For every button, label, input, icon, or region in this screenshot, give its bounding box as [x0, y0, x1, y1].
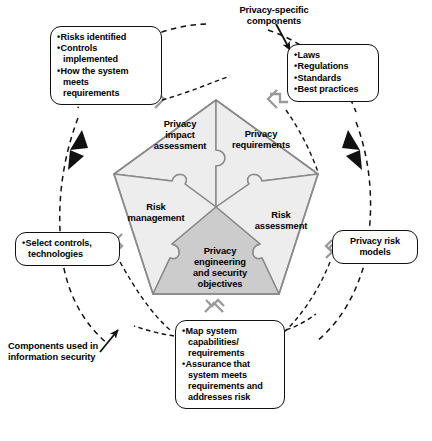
list-item: How the system meets requirements [57, 66, 155, 99]
list-item: Risks identified [57, 32, 155, 43]
callout-privacy-risk-models-text: Privacy risk models [339, 236, 411, 258]
callout-assessment-results: Risks identified Controls implemented Ho… [50, 26, 162, 105]
connector-to-privacy-requirements [268, 90, 288, 108]
leader-privacy-specific [276, 24, 290, 50]
list-item: Assurance that system meets requirements… [182, 359, 278, 403]
ring-arc-bottom-left [62, 258, 108, 344]
callout-system-mapping-list: Map system capabilities/ requirements As… [182, 326, 278, 403]
callout-privacy-risk-models: Privacy risk models [332, 230, 418, 264]
callout-privacy-sources: Laws Regulations Standards Best practice… [287, 44, 379, 102]
list-item: Regulations [294, 61, 372, 72]
list-item: Laws [294, 50, 372, 61]
list-item: Select controls, technologies [22, 238, 113, 260]
list-item: Best practices [294, 84, 372, 95]
callout-privacy-sources-list: Laws Regulations Standards Best practice… [294, 50, 372, 95]
list-item: Standards [294, 73, 372, 84]
pentagon-puzzle [114, 100, 318, 294]
tail-privacy-risk-models [282, 262, 330, 334]
callout-assessment-results-list: Risks identified Controls implemented Ho… [57, 32, 155, 98]
ring-arc-bottom-right [316, 258, 366, 342]
ring-arrowhead-right [342, 130, 362, 170]
callout-system-mapping: Map system capabilities/ requirements As… [175, 320, 285, 409]
list-item: Controls implemented [57, 43, 155, 65]
list-item: Map system capabilities/ requirements [182, 326, 278, 359]
callout-controls-technologies: Select controls, technologies [15, 232, 120, 266]
callout-controls-technologies-list: Select controls, technologies [22, 238, 113, 260]
tail-assessment-results [162, 76, 230, 100]
connector-to-core-objectives [205, 300, 224, 312]
diagram-canvas: Privacy impact assessment Privacy requir… [0, 0, 432, 441]
annotation-privacy-specific-components: Privacy-specific components [214, 5, 334, 28]
ring-arrowhead-left [68, 130, 88, 170]
annotation-infosec-components: Components used in information security [8, 341, 140, 364]
tail-system-mapping-right [286, 314, 316, 330]
